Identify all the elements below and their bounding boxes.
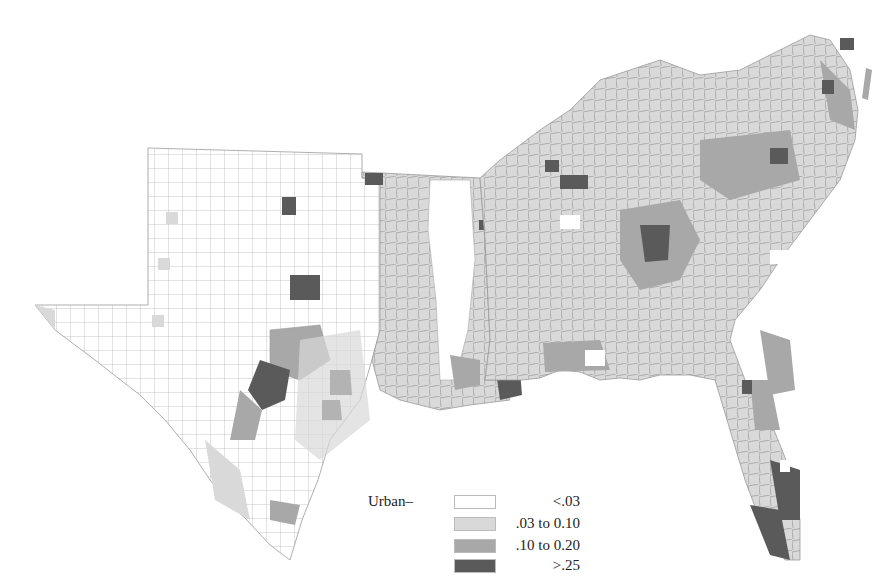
legend: Urban– <.03 .03 to 0.10 .10 to 0.20 >.25 (360, 489, 580, 584)
region-southeast (480, 35, 858, 560)
legend-label-2: .10 to 0.20 (480, 538, 580, 552)
region-delmarva (862, 68, 872, 100)
legend-label-0: <.03 (480, 494, 580, 508)
legend-label-1: .03 to 0.10 (480, 516, 580, 530)
region-texas-oklahoma (35, 148, 380, 560)
legend-title: Urban– (368, 493, 413, 510)
legend-label-3: >.25 (480, 558, 580, 572)
